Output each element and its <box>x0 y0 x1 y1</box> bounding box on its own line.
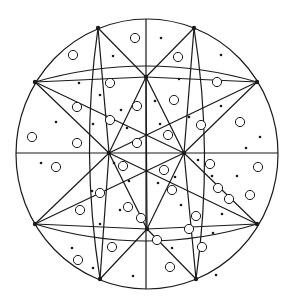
dot-marker <box>159 123 162 126</box>
open-circle-marker <box>27 132 36 141</box>
open-circle-marker <box>105 115 114 124</box>
dot-marker <box>132 275 135 278</box>
vertex-node <box>182 151 186 155</box>
dot-marker <box>71 247 74 250</box>
open-circle-marker <box>196 120 205 129</box>
segment-line <box>100 153 109 279</box>
dot-marker <box>160 37 163 40</box>
segment-line <box>109 82 257 153</box>
dot-marker <box>221 213 224 216</box>
open-circle-marker <box>72 138 81 147</box>
dot-marker <box>180 204 183 207</box>
dot-marker <box>236 175 239 178</box>
vertex-node <box>194 277 198 281</box>
dot-marker <box>245 147 248 150</box>
vertex-node <box>33 222 37 226</box>
open-circle-marker <box>68 50 77 59</box>
open-circle-marker <box>130 33 139 42</box>
dot-marker <box>157 182 160 185</box>
open-circle-marker <box>235 117 244 126</box>
dot-marker <box>113 162 116 165</box>
geometric-star-diagram <box>0 0 289 301</box>
open-circle-marker <box>152 235 161 244</box>
dot-marker <box>128 180 131 183</box>
dot-marker <box>212 232 215 235</box>
vertex-node <box>192 26 196 30</box>
open-circle-marker <box>73 255 82 264</box>
vertex-node <box>145 227 149 231</box>
open-circle-marker <box>132 138 141 147</box>
open-circle-marker <box>184 224 193 233</box>
open-circle-marker <box>213 183 222 192</box>
dot-marker <box>120 109 123 112</box>
vertex-node <box>255 80 259 84</box>
open-circle-marker <box>163 130 172 139</box>
open-circle-marker <box>212 77 221 86</box>
open-circle-marker <box>197 242 206 251</box>
open-circle-marker <box>159 165 168 174</box>
open-circle-marker <box>224 194 233 203</box>
open-circle-marker <box>105 78 114 87</box>
dot-marker <box>178 78 181 81</box>
open-circle-marker <box>136 213 145 222</box>
segment-line <box>147 153 184 229</box>
dot-marker <box>99 223 102 226</box>
vertex-node <box>96 26 100 30</box>
dot-marker <box>220 54 223 57</box>
dot-marker <box>119 209 122 212</box>
open-circle-marker <box>132 101 141 110</box>
open-circle-marker <box>123 202 132 211</box>
open-circle-marker <box>72 102 81 111</box>
dot-marker <box>92 267 95 270</box>
open-circle-marker <box>118 161 127 170</box>
open-circle-marker <box>75 205 84 214</box>
open-circle-marker <box>51 162 60 171</box>
dot-marker <box>99 94 102 97</box>
open-circle-marker <box>167 185 176 194</box>
open-circle-marker <box>205 159 214 168</box>
dot-marker <box>171 247 174 250</box>
dot-marker <box>197 159 200 162</box>
dot-marker <box>40 162 43 165</box>
dot-marker <box>154 100 157 103</box>
vertex-node <box>33 80 37 84</box>
segment-line <box>184 82 257 153</box>
vertex-node <box>98 277 102 281</box>
dot-marker <box>215 274 218 277</box>
dot-marker <box>92 123 95 126</box>
segment-line <box>109 153 257 224</box>
dot-marker <box>220 105 223 108</box>
open-circle-marker <box>107 242 116 251</box>
segment-line <box>100 229 147 279</box>
line-layer <box>16 19 278 289</box>
open-circle-marker <box>169 95 178 104</box>
dot-marker <box>188 116 191 119</box>
dot-marker <box>259 136 262 139</box>
segment-line <box>184 28 194 153</box>
vertex-node <box>255 222 259 226</box>
open-circle-marker <box>191 211 200 220</box>
diagram-stage <box>0 0 289 301</box>
dot-marker <box>126 127 129 130</box>
open-circle-marker <box>245 190 254 199</box>
segment-line <box>98 28 109 153</box>
dot-marker <box>55 121 58 124</box>
dot-marker <box>91 190 94 193</box>
segment-line <box>146 77 184 153</box>
open-circle-marker <box>95 188 104 197</box>
vertex-node <box>144 75 148 79</box>
dot-marker <box>78 82 81 85</box>
dot-marker <box>112 55 115 58</box>
open-circle-marker <box>253 162 262 171</box>
open-circle-marker <box>173 52 182 61</box>
open-circle-marker <box>165 262 174 271</box>
segment-line <box>146 28 194 77</box>
vertex-node <box>107 151 111 155</box>
dot-marker <box>174 176 177 179</box>
dot-marker <box>211 175 214 178</box>
